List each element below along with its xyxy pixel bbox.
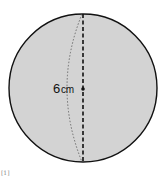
radius-unit: cm — [61, 84, 74, 95]
radius-label: 6cm — [53, 81, 74, 96]
center-point — [81, 87, 85, 91]
radius-value: 6 — [53, 81, 60, 96]
sphere-diagram — [0, 0, 165, 177]
corner-mark: [1] — [1, 169, 10, 176]
